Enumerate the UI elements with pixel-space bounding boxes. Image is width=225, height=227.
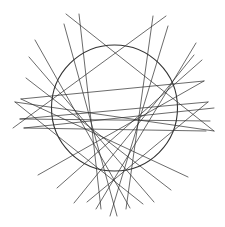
line-segment: [87, 102, 208, 202]
line-segment: [20, 119, 210, 121]
line-segments-group: [13, 14, 214, 216]
central-circle: [52, 45, 178, 171]
geometric-line-circle-diagram: [0, 0, 225, 227]
line-segment: [35, 40, 130, 208]
line-segment: [66, 14, 214, 131]
